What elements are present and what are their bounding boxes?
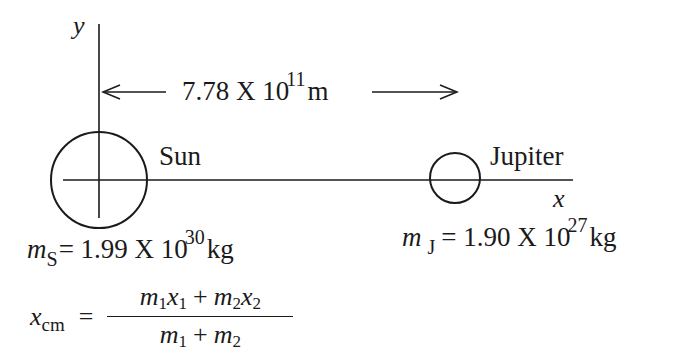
den-plus: + bbox=[193, 320, 208, 349]
formula-fraction: m1x1+m2x2 m1+m2 bbox=[107, 282, 293, 352]
sun-mass-mantissa: = 1.99 X 10 bbox=[59, 234, 188, 264]
den-term-m1: m bbox=[160, 320, 179, 349]
sun-mass-subscript: S bbox=[47, 248, 58, 270]
num-sub-2b: 2 bbox=[253, 294, 262, 313]
jupiter-label: Jupiter bbox=[490, 143, 564, 170]
jupiter-circle bbox=[430, 153, 480, 203]
formula-lhs: xcm bbox=[30, 302, 65, 332]
fraction-bar bbox=[107, 316, 293, 318]
num-sub-2: 2 bbox=[233, 294, 242, 313]
formula-equals: = bbox=[79, 302, 94, 332]
distance-arrow-right-icon bbox=[372, 85, 457, 99]
distance-exponent: 11 bbox=[286, 68, 305, 90]
den-sub-2: 2 bbox=[233, 332, 242, 351]
den-term-m2: m bbox=[214, 320, 233, 349]
jupiter-mass-exponent: 27 bbox=[568, 214, 588, 236]
distance-unit: m bbox=[308, 76, 329, 106]
formula-denominator: m1+m2 bbox=[156, 320, 245, 352]
distance-arrow-left-icon bbox=[103, 85, 166, 99]
y-axis-label: y bbox=[73, 13, 85, 39]
sun-mass-symbol: m bbox=[27, 234, 47, 264]
num-sub-1: 1 bbox=[159, 294, 168, 313]
sun-label: Sun bbox=[159, 143, 201, 170]
num-term-x1: x bbox=[167, 282, 179, 311]
x-axis-label: x bbox=[553, 186, 565, 212]
jupiter-mass-subscript: J bbox=[428, 236, 436, 258]
jupiter-mass-mantissa: = 1.90 X 10 bbox=[441, 222, 570, 252]
den-sub-1: 1 bbox=[179, 332, 188, 351]
num-plus: + bbox=[193, 282, 208, 311]
formula-lhs-var: x bbox=[30, 302, 42, 331]
jupiter-mass-label: mJ= 1.90 X 1027kg bbox=[402, 224, 617, 251]
distance-mantissa: 7.78 X 10 bbox=[182, 76, 289, 106]
jupiter-mass-symbol: m bbox=[402, 222, 422, 252]
formula-numerator: m1x1+m2x2 bbox=[136, 282, 265, 314]
num-term-m2: m bbox=[214, 282, 233, 311]
num-term-x2: x bbox=[241, 282, 253, 311]
distance-label: 7.78 X 1011m bbox=[182, 78, 329, 105]
sun-mass-label: mS= 1.99 X 1030kg bbox=[27, 236, 234, 263]
num-term-m1: m bbox=[140, 282, 159, 311]
jupiter-mass-unit: kg bbox=[590, 222, 617, 252]
formula-lhs-sub: cm bbox=[42, 314, 65, 335]
sun-mass-unit: kg bbox=[207, 234, 234, 264]
sun-mass-exponent: 30 bbox=[185, 226, 205, 248]
num-sub-1b: 1 bbox=[179, 294, 188, 313]
center-of-mass-formula: xcm = m1x1+m2x2 m1+m2 bbox=[30, 282, 293, 352]
